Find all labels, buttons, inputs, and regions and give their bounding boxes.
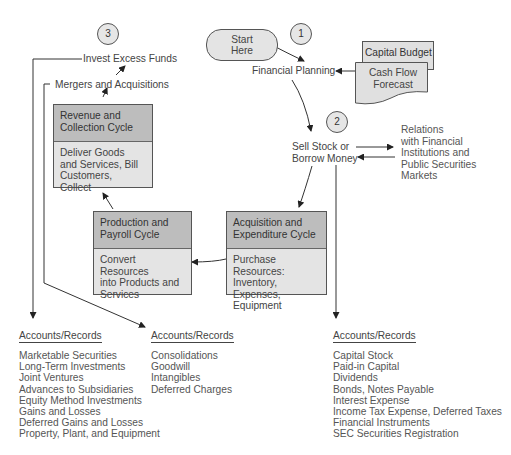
list-item: Joint Ventures [19, 372, 160, 383]
revenue-title-line-1: Revenue and [60, 110, 146, 122]
production-cycle-body: Convert Resources into Products and Serv… [94, 249, 191, 305]
accounts-records-right: Accounts/Records Capital Stock Paid-in C… [333, 325, 502, 440]
revenue-collection-cycle-box: Revenue and Collection Cycle Deliver Goo… [53, 104, 153, 188]
list-item: Consolidations [151, 350, 234, 361]
revenue-body-line-3: Customers, Collect [60, 170, 146, 193]
acquisition-cycle-title: Acquisition and Expenditure Cycle [227, 212, 326, 249]
acquisition-cycle-body: Purchase Resources: Inventory, Expenses,… [227, 249, 326, 317]
sell-stock-label: Sell Stock or Borrow Money [292, 141, 358, 165]
capital-budget-label: Capital Budget [365, 47, 432, 58]
list-item: Interest Expense [333, 395, 502, 406]
list-item: Dividends [333, 372, 502, 383]
relations-line-5: Markets [401, 170, 476, 182]
acquisition-expenditure-cycle-box: Acquisition and Expenditure Cycle Purcha… [226, 211, 327, 295]
financial-planning-label: Financial Planning [252, 65, 335, 77]
list-item: Financial Instruments [333, 417, 502, 428]
relations-line-2: with Financial [401, 136, 476, 148]
cash-flow-line-1: Cash Flow [367, 67, 419, 79]
sell-stock-line-1: Sell Stock or [292, 141, 358, 153]
revenue-cycle-body: Deliver Goods and Services, Bill Custome… [54, 142, 152, 198]
step-2-marker: 2 [326, 111, 348, 133]
list-item: Gains and Losses [19, 406, 160, 417]
mergers-acquisitions-label: Mergers and Acquisitions [55, 79, 169, 91]
cash-flow-forecast-label: Cash Flow Forecast [367, 67, 419, 90]
start-line-1: Start [207, 34, 277, 46]
list-item: Equity Method Investments [19, 395, 160, 406]
production-body-line-1: Convert Resources [100, 254, 185, 277]
accounts-records-middle: Accounts/Records Consolidations Goodwill… [151, 325, 234, 395]
relations-line-1: Relations [401, 124, 476, 136]
relations-financial-institutions-label: Relations with Financial Institutions an… [401, 124, 476, 182]
list-item: Marketable Securities [19, 350, 160, 361]
production-body-line-2: into Products and [100, 277, 185, 289]
start-terminal: Start Here [206, 29, 278, 61]
production-body-line-3: Services [100, 289, 185, 301]
list-item: Deferred Gains and Losses [19, 417, 160, 428]
acquisition-body-line-1: Purchase Resources: [233, 254, 320, 277]
accounts-records-left: Accounts/Records Marketable Securities L… [19, 325, 160, 440]
list-item: Goodwill [151, 361, 234, 372]
step-3-marker: 3 [97, 23, 119, 45]
step-3-number: 3 [105, 28, 111, 39]
acquisition-title-line-1: Acquisition and [233, 217, 320, 229]
acquisition-body-line-3: Equipment [233, 300, 320, 312]
list-item: Bonds, Notes Payable [333, 384, 502, 395]
relations-line-4: Public Securities [401, 159, 476, 171]
relations-line-3: Institutions and [401, 147, 476, 159]
accounts-left-list: Marketable Securities Long-Term Investme… [19, 350, 160, 440]
cash-flow-line-2: Forecast [367, 79, 419, 91]
start-line-2: Here [207, 45, 277, 57]
list-item: Advances to Subsidiaries [19, 384, 160, 395]
production-cycle-title: Production and Payroll Cycle [94, 212, 191, 249]
revenue-body-line-1: Deliver Goods [60, 147, 146, 159]
list-item: Property, Plant, and Equipment [19, 428, 160, 439]
list-item: Intangibles [151, 372, 234, 383]
list-item: Deferred Charges [151, 384, 234, 395]
production-title-line-2: Payroll Cycle [100, 229, 185, 241]
list-item: Paid-in Capital [333, 361, 502, 372]
acquisition-title-line-2: Expenditure Cycle [233, 229, 320, 241]
revenue-body-line-2: and Services, Bill [60, 159, 146, 171]
invest-excess-funds-label: Invest Excess Funds [83, 53, 177, 65]
step-1-number: 1 [298, 28, 304, 39]
list-item: Long-Term Investments [19, 361, 160, 372]
revenue-cycle-title: Revenue and Collection Cycle [54, 105, 152, 142]
list-item: SEC Securities Registration [333, 428, 502, 439]
sell-stock-line-2: Borrow Money [292, 153, 358, 165]
acquisition-body-line-2: Inventory, Expenses, [233, 277, 320, 300]
step-1-marker: 1 [290, 23, 312, 45]
list-item: Income Tax Expense, Deferred Taxes [333, 406, 502, 417]
revenue-title-line-2: Collection Cycle [60, 122, 146, 134]
accounts-left-title: Accounts/Records [19, 330, 102, 343]
production-title-line-1: Production and [100, 217, 185, 229]
accounts-middle-title: Accounts/Records [151, 330, 234, 343]
accounts-right-title: Accounts/Records [333, 330, 416, 343]
production-payroll-cycle-box: Production and Payroll Cycle Convert Res… [93, 211, 192, 295]
accounts-middle-list: Consolidations Goodwill Intangibles Defe… [151, 350, 234, 395]
accounts-right-list: Capital Stock Paid-in Capital Dividends … [333, 350, 502, 440]
step-2-number: 2 [334, 116, 340, 127]
list-item: Capital Stock [333, 350, 502, 361]
